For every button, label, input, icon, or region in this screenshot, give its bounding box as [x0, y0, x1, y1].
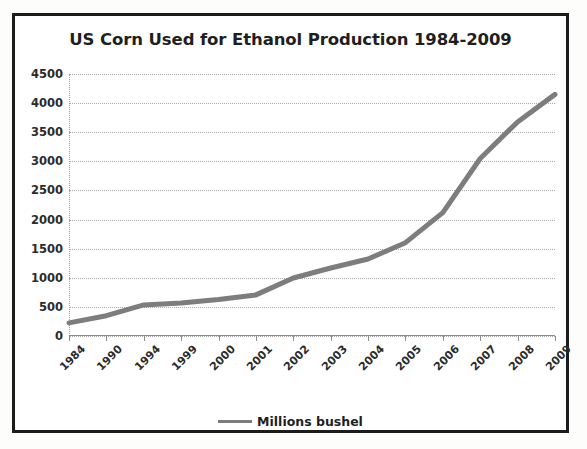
x-axis-tick-label: 2009 [543, 343, 574, 374]
x-axis-tick-mark [480, 336, 481, 341]
x-axis-tick-mark [368, 336, 369, 341]
y-axis-tick-label: 1000 [31, 271, 63, 285]
x-axis-tick-mark [331, 336, 332, 341]
x-axis-tick-label: 2006 [431, 343, 462, 374]
x-axis-tick-mark [443, 336, 444, 341]
x-axis-tick-mark [106, 336, 107, 341]
x-axis-tick-mark [293, 336, 294, 341]
x-axis-tick-mark [555, 336, 556, 341]
legend-label: Millions bushel [257, 414, 363, 429]
x-axis-tick-mark [518, 336, 519, 341]
plot-area: 050010001500200025003000350040004500 198… [69, 74, 555, 336]
legend-line-swatch [218, 420, 252, 423]
x-axis-tick-label: 2003 [319, 343, 350, 374]
scanned-page: US Corn Used for Ethanol Production 1984… [0, 0, 587, 449]
y-axis-tick-label: 1500 [31, 242, 63, 256]
y-axis-tick-label: 2500 [31, 183, 63, 197]
chart-legend: Millions bushel [15, 414, 566, 429]
y-axis-tick-label: 3500 [31, 125, 63, 139]
series-millions-bushel [69, 94, 555, 323]
x-axis-tick-label: 1999 [169, 343, 200, 374]
x-axis-tick-mark [144, 336, 145, 341]
y-axis-tick-label: 0 [55, 329, 63, 343]
x-axis-tick-label: 2007 [468, 343, 499, 374]
gridline [69, 336, 555, 337]
x-axis-tick-label: 1994 [132, 343, 163, 374]
series-line-chart [69, 74, 555, 336]
x-axis-tick-label: 2004 [356, 343, 387, 374]
x-axis-tick-mark [256, 336, 257, 341]
x-axis-tick-mark [219, 336, 220, 341]
x-axis-tick-label: 1990 [95, 343, 126, 374]
x-axis-tick-label: 2005 [394, 343, 425, 374]
chart-frame: US Corn Used for Ethanol Production 1984… [12, 13, 569, 433]
y-axis-tick-label: 500 [39, 300, 63, 314]
x-axis-tick-mark [69, 336, 70, 341]
y-axis-tick-label: 4500 [31, 67, 63, 81]
x-axis-tick-label: 2002 [282, 343, 313, 374]
plot-wrapper: 050010001500200025003000350040004500 198… [15, 16, 566, 430]
x-axis-tick-mark [405, 336, 406, 341]
x-axis-tick-label: 2001 [244, 343, 275, 374]
y-axis-tick-label: 3000 [31, 154, 63, 168]
x-axis-tick-label: 2000 [207, 343, 238, 374]
x-axis-tick-label: 2008 [506, 343, 537, 374]
y-axis-tick-label: 4000 [31, 96, 63, 110]
x-axis-tick-label: 1984 [57, 343, 88, 374]
y-axis-tick-label: 2000 [31, 213, 63, 227]
x-axis-tick-mark [181, 336, 182, 341]
